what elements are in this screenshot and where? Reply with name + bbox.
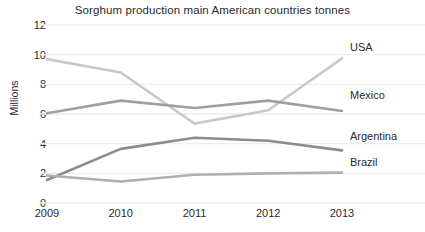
x-axis-tick-label: 2013 (319, 207, 365, 219)
x-axis-tick-label: 2011 (172, 207, 218, 219)
series-label-usa: USA (350, 41, 373, 53)
series-lines (47, 58, 342, 181)
x-axis-tick-label: 2009 (24, 207, 70, 219)
series-line-mexico (47, 101, 342, 114)
series-label-argentina: Argentina (350, 130, 397, 142)
series-label-mexico: Mexico (350, 89, 385, 101)
x-axis-tick-label: 2012 (245, 207, 291, 219)
plot-area (0, 0, 425, 232)
x-axis-tick-label: 2010 (98, 207, 144, 219)
series-label-brazil: Brazil (350, 156, 378, 168)
chart-container: Sorghum production main American countri… (0, 0, 425, 232)
